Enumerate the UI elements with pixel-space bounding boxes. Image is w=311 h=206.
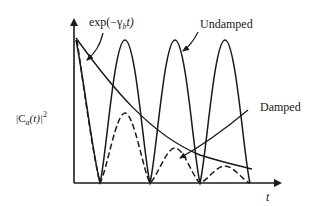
figure-canvas: exp(−γbt) Undamped Damped t |Ca(t)|2 <box>0 0 311 206</box>
undamped-label: Undamped <box>200 18 253 30</box>
undamped-pointer-arrow <box>183 32 198 51</box>
exp-envelope-curve <box>76 38 252 169</box>
y-axis-label: |Ca(t)|2 <box>16 111 47 127</box>
damped-label: Damped <box>260 101 301 113</box>
envelope-label: exp(−γbt) <box>89 16 134 31</box>
axes <box>74 20 280 183</box>
x-axis-label: t <box>266 191 269 203</box>
